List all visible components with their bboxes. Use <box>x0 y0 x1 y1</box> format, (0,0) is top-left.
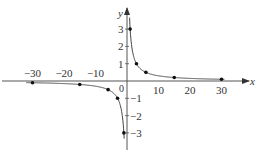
x-axis-label: x <box>249 75 255 87</box>
data-point <box>116 97 120 101</box>
x-tick-label: −10 <box>87 67 105 79</box>
curve-right-branch <box>130 18 225 80</box>
data-point <box>31 81 35 85</box>
y-tick-label: −3 <box>130 127 142 139</box>
y-tick-label: 1 <box>118 58 124 70</box>
x-tick-label: 10 <box>153 84 165 96</box>
y-tick-label: 3 <box>118 23 124 35</box>
data-point <box>128 27 132 31</box>
origin-label: 0 <box>119 83 124 94</box>
data-point <box>144 71 148 75</box>
tick-labels: xy−30−20−100102030321−1−2−3 <box>24 7 255 139</box>
curve-left-branch <box>26 83 124 139</box>
data-point <box>172 76 176 80</box>
x-tick-label: −30 <box>24 67 42 79</box>
y-axis-label: y <box>117 7 123 19</box>
y-tick-label: −2 <box>130 110 142 122</box>
chart: xy−30−20−100102030321−1−2−3 <box>0 0 262 163</box>
x-tick-label: −20 <box>55 67 73 79</box>
data-point <box>122 131 126 135</box>
y-tick-label: 2 <box>118 40 124 52</box>
data-point <box>135 62 139 66</box>
x-tick-label: 30 <box>216 84 228 96</box>
data-point <box>78 83 82 87</box>
data-point <box>220 77 224 81</box>
data-point <box>106 88 110 92</box>
y-tick-label: −1 <box>130 92 142 104</box>
x-tick-label: 20 <box>185 84 197 96</box>
